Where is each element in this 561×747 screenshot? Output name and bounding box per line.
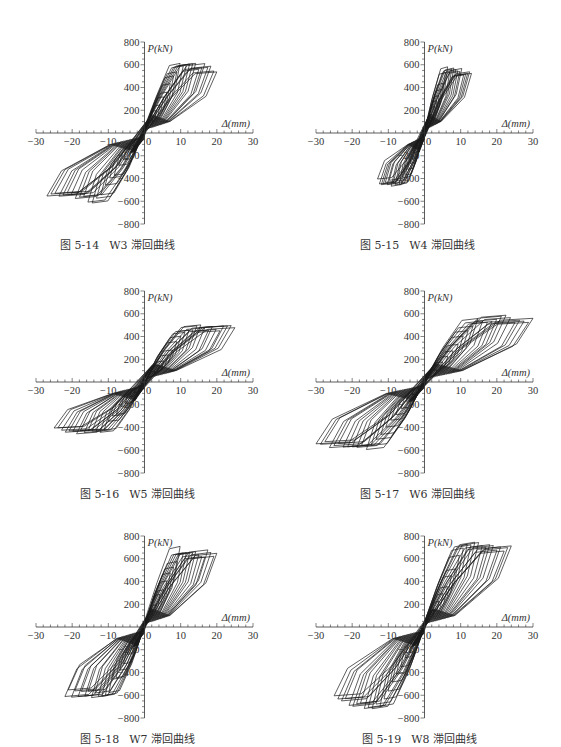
x-tick-label: 20 [212, 385, 223, 396]
x-tick-label: −10 [380, 630, 396, 641]
x-axis-label: Δ(mm) [501, 118, 531, 130]
hysteresis-chart-w5: −30−20−100102030−800−600−400−20020040060… [0, 249, 280, 479]
x-tick-label: 10 [175, 385, 186, 396]
hysteresis-chart-w6: −30−20−100102030−800−600−400−20020040060… [280, 249, 560, 479]
x-tick-label: 30 [528, 136, 539, 147]
y-tick-label: 600 [404, 308, 420, 319]
y-tick-label: 200 [404, 105, 420, 116]
y-tick-label: −600 [118, 445, 140, 456]
y-tick-label: 200 [124, 354, 140, 365]
y-tick-label: −400 [118, 667, 140, 678]
x-tick-label: −10 [100, 385, 116, 396]
y-tick-label: −800 [398, 713, 420, 724]
x-axis-label: Δ(mm) [221, 118, 251, 130]
hysteresis-chart-w4: −30−20−100102030−800−600−400−20020040060… [280, 0, 560, 230]
x-axis-label: Δ(mm) [501, 367, 531, 379]
x-tick-label: −10 [380, 385, 396, 396]
caption-text: W7 滞回曲线 [129, 733, 195, 746]
y-tick-label: −600 [118, 196, 140, 207]
y-tick-label: −800 [398, 219, 420, 230]
figure-w3: −30−20−100102030−800−600−400−20020040060… [0, 0, 280, 249]
y-tick-label: 200 [404, 354, 420, 365]
y-tick-label: 600 [404, 553, 420, 564]
caption-w7: 图 5-18W7 滞回曲线 [80, 730, 195, 746]
y-tick-label: −400 [118, 173, 140, 184]
y-tick-label: −400 [398, 667, 420, 678]
y-tick-label: 200 [124, 105, 140, 116]
y-tick-label: −200 [118, 150, 140, 161]
y-tick-label: 400 [124, 82, 140, 93]
y-tick-label: 400 [404, 82, 420, 93]
y-tick-label: 800 [404, 37, 420, 48]
hysteresis-chart-w8: −30−20−100102030−800−600−400−20020040060… [280, 494, 560, 724]
y-tick-label: 600 [404, 59, 420, 70]
y-tick-label: 400 [404, 331, 420, 342]
x-tick-label: 10 [175, 630, 186, 641]
x-tick-label: 0 [146, 385, 151, 396]
x-tick-label: 10 [175, 136, 186, 147]
y-axis-label: P(kN) [147, 537, 174, 549]
x-tick-label: 0 [426, 630, 431, 641]
y-tick-label: −600 [398, 690, 420, 701]
caption-w8: 图 5-19W8 滞回曲线 [362, 730, 477, 746]
x-tick-label: −20 [344, 385, 360, 396]
figure-w5: −30−20−100102030−800−600−400−20020040060… [0, 249, 280, 498]
x-axis-label: Δ(mm) [501, 612, 531, 624]
y-tick-label: −600 [398, 196, 420, 207]
x-axis-label: Δ(mm) [221, 367, 251, 379]
x-tick-label: 30 [248, 136, 259, 147]
y-axis-label: P(kN) [427, 292, 454, 304]
y-tick-label: 200 [404, 599, 420, 610]
y-tick-label: 600 [124, 308, 140, 319]
x-tick-label: 0 [146, 630, 151, 641]
y-axis-label: P(kN) [427, 43, 454, 55]
caption-number: 图 5-18 [80, 733, 119, 746]
y-tick-label: −200 [398, 644, 420, 655]
y-tick-label: 200 [124, 599, 140, 610]
x-tick-label: 30 [528, 385, 539, 396]
x-tick-label: 30 [528, 630, 539, 641]
y-tick-label: 800 [404, 531, 420, 542]
hysteresis-loop [68, 556, 214, 690]
y-tick-label: −800 [118, 468, 140, 479]
x-tick-label: −10 [380, 136, 396, 147]
y-tick-label: 800 [404, 286, 420, 297]
x-tick-label: −30 [308, 385, 324, 396]
x-tick-label: 20 [492, 630, 503, 641]
x-tick-label: 10 [455, 630, 466, 641]
x-tick-label: −20 [64, 385, 80, 396]
y-tick-label: −200 [118, 644, 140, 655]
x-tick-label: −20 [344, 136, 360, 147]
x-tick-label: 10 [455, 136, 466, 147]
y-axis-label: P(kN) [147, 43, 174, 55]
y-tick-label: 400 [124, 576, 140, 587]
x-tick-label: 20 [212, 136, 223, 147]
hysteresis-loops [65, 546, 217, 697]
y-tick-label: −600 [118, 690, 140, 701]
x-tick-label: −20 [64, 630, 80, 641]
x-tick-label: 0 [426, 136, 431, 147]
y-tick-label: −200 [118, 399, 140, 410]
x-tick-label: −30 [308, 630, 324, 641]
x-tick-label: 20 [212, 630, 223, 641]
y-tick-label: 400 [124, 331, 140, 342]
y-tick-label: −800 [398, 468, 420, 479]
x-tick-label: 20 [492, 385, 503, 396]
y-tick-label: 600 [124, 59, 140, 70]
y-axis-label: P(kN) [427, 537, 454, 549]
figure-w6: −30−20−100102030−800−600−400−20020040060… [280, 249, 560, 498]
caption-number: 图 5-19 [362, 733, 401, 746]
figure-w4: −30−20−100102030−800−600−400−20020040060… [280, 0, 560, 249]
x-tick-label: 0 [426, 385, 431, 396]
y-tick-label: −200 [398, 150, 420, 161]
figure-w8: −30−20−100102030−800−600−400−20020040060… [280, 494, 560, 743]
x-tick-label: 20 [492, 136, 503, 147]
x-axis-label: Δ(mm) [221, 612, 251, 624]
x-tick-label: −10 [100, 136, 116, 147]
hysteresis-chart-w3: −30−20−100102030−800−600−400−20020040060… [0, 0, 280, 230]
x-tick-label: 30 [248, 630, 259, 641]
x-tick-label: −30 [308, 136, 324, 147]
y-tick-label: −800 [118, 713, 140, 724]
x-tick-label: 0 [146, 136, 151, 147]
caption-text: W8 滞回曲线 [411, 733, 477, 746]
